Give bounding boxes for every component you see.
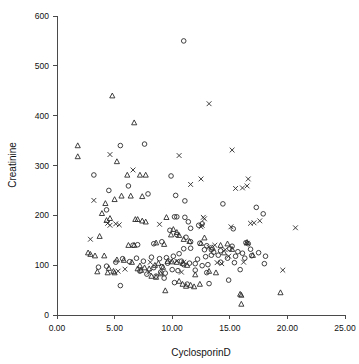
- data-point-circle: [173, 193, 178, 198]
- data-point-triangle: [132, 120, 137, 125]
- data-point-circle: [262, 261, 267, 266]
- data-point-circle: [188, 246, 193, 251]
- data-point-circle: [92, 173, 97, 178]
- data-point-cross: [131, 168, 136, 173]
- data-point-triangle: [103, 201, 108, 206]
- data-point-cross: [108, 152, 113, 157]
- data-point-circle: [216, 253, 221, 258]
- data-point-circle: [236, 249, 241, 254]
- data-point-circle: [118, 143, 123, 148]
- data-point-circle: [226, 278, 231, 283]
- data-point-cross: [207, 101, 212, 106]
- data-point-cross: [91, 198, 96, 203]
- data-point-cross: [202, 216, 207, 221]
- data-point-circle: [202, 247, 207, 252]
- data-point-triangle: [107, 216, 112, 221]
- data-point-cross: [246, 177, 251, 182]
- data-point-circle: [261, 212, 266, 217]
- data-point-triangle: [239, 301, 244, 306]
- data-point-circle: [238, 267, 243, 272]
- data-point-circle: [181, 246, 186, 251]
- data-point-circle: [218, 248, 223, 253]
- data-point-triangle: [112, 197, 117, 202]
- data-point-circle: [142, 142, 147, 147]
- data-point-circle: [163, 271, 168, 276]
- y-tick-label: 600: [35, 11, 49, 21]
- data-point-circle: [242, 256, 247, 261]
- data-point-triangle: [97, 234, 102, 239]
- data-point-circle: [248, 247, 253, 252]
- data-point-triangle: [137, 172, 142, 177]
- data-point-cross: [233, 186, 238, 191]
- data-point-cross: [245, 184, 250, 189]
- data-point-triangle: [202, 235, 207, 240]
- data-point-cross: [157, 222, 162, 227]
- data-point-cross: [248, 221, 253, 226]
- data-point-circle: [256, 250, 261, 255]
- data-point-circle: [169, 174, 174, 179]
- data-point-triangle: [114, 159, 119, 164]
- data-point-cross: [117, 222, 122, 227]
- data-point-circle: [207, 281, 212, 286]
- data-point-circle: [157, 256, 162, 261]
- axes-group: [57, 16, 345, 315]
- data-point-cross: [188, 182, 193, 187]
- x-tick-label: 0.00: [49, 323, 66, 333]
- data-point-circle: [118, 283, 123, 288]
- data-point-circle: [149, 255, 154, 260]
- y-axis-title: Creatinine: [7, 142, 18, 188]
- y-tick-label: 400: [35, 111, 49, 121]
- data-point-triangle: [126, 243, 131, 248]
- data-point-circle: [254, 205, 259, 210]
- x-axis-title: CyclosporinD: [171, 347, 230, 358]
- data-point-circle: [240, 251, 245, 256]
- data-point-circle: [195, 257, 200, 262]
- plot-canvas: 0100200300400500600 0.005.0010.0015.0020…: [0, 0, 359, 364]
- data-point-circle: [193, 261, 198, 266]
- data-point-circle: [232, 260, 237, 265]
- data-point-cross: [113, 221, 118, 226]
- data-point-cross: [108, 223, 113, 228]
- y-tick-label: 100: [35, 260, 49, 270]
- y-tick-label: 500: [35, 61, 49, 71]
- data-point-circle: [183, 215, 188, 220]
- data-point-circle: [177, 251, 182, 256]
- data-point-cross: [148, 260, 153, 265]
- data-point-triangle: [163, 288, 168, 293]
- x-tick-label: 10.00: [162, 323, 184, 333]
- data-point-cross: [240, 186, 245, 191]
- figure-title: [60, 0, 310, 12]
- data-point-triangle: [140, 194, 145, 199]
- data-point-triangle: [125, 172, 130, 177]
- data-point-triangle: [75, 154, 80, 159]
- x-tick-label: 5.00: [106, 323, 123, 333]
- data-point-cross: [293, 225, 298, 230]
- data-point-circle: [146, 192, 151, 197]
- data-point-cross: [280, 268, 285, 273]
- data-point-triangle: [106, 265, 111, 270]
- y-axis-ticks: 0100200300400500600: [35, 11, 57, 320]
- data-point-triangle: [128, 193, 133, 198]
- data-point-circle: [221, 202, 226, 207]
- data-point-circle: [141, 259, 146, 264]
- data-point-triangle: [102, 253, 107, 258]
- y-tick-label: 0: [44, 310, 49, 320]
- data-point-triangle: [121, 257, 126, 262]
- data-point-triangle: [218, 243, 223, 248]
- data-point-triangle: [225, 241, 230, 246]
- data-point-circle: [107, 188, 112, 193]
- data-point-circle: [104, 208, 109, 213]
- y-tick-label: 300: [35, 161, 49, 171]
- data-point-circle: [126, 184, 131, 189]
- data-point-circle: [162, 276, 167, 281]
- data-point-cross: [123, 267, 128, 272]
- data-point-cross: [88, 237, 93, 242]
- data-point-cross: [177, 153, 182, 158]
- data-point-cross: [230, 148, 235, 153]
- data-point-circle: [200, 263, 205, 268]
- data-point-circle: [263, 254, 268, 259]
- data-point-triangle: [278, 290, 283, 295]
- x-axis-ticks: 0.005.0010.0015.0020.0025.00: [49, 315, 356, 333]
- x-tick-label: 25.00: [334, 323, 356, 333]
- data-point-circle: [183, 199, 188, 204]
